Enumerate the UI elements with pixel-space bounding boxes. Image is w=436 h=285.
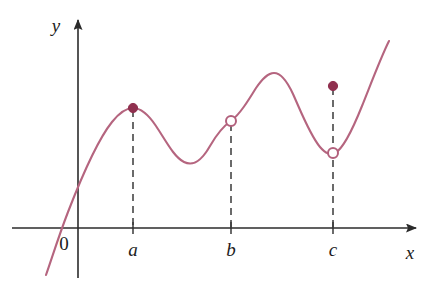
filled-point-at-a bbox=[128, 103, 137, 112]
open-point-at-b bbox=[226, 116, 236, 126]
x-axis-label: x bbox=[405, 242, 415, 263]
figure-root: y x 0 a b c bbox=[0, 0, 436, 285]
tick-label-a: a bbox=[128, 239, 138, 260]
y-axis-label: y bbox=[50, 15, 61, 36]
graph-canvas: y x 0 a b c bbox=[0, 0, 436, 285]
filled-point-above-c bbox=[328, 81, 337, 90]
open-point-at-c bbox=[328, 148, 338, 158]
tick-label-b: b bbox=[226, 239, 236, 260]
origin-label: 0 bbox=[59, 233, 69, 254]
function-curve bbox=[46, 41, 389, 275]
tick-label-c: c bbox=[329, 239, 338, 260]
